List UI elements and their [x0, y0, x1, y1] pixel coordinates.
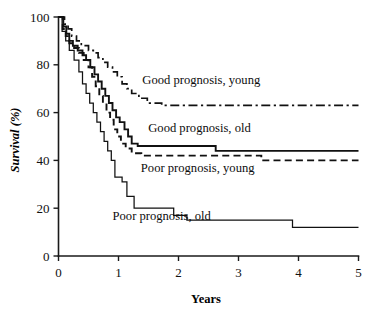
y-tick-label: 0 [43, 249, 50, 264]
y-tick-label: 20 [37, 201, 50, 216]
y-tick-label: 60 [37, 105, 50, 120]
x-tick-label: 4 [295, 265, 302, 280]
series-annotation-group: Good prognosis, youngGood prognosis, old… [113, 73, 261, 223]
series-line-good-prognosis-young [59, 17, 359, 105]
x-tick-label: 3 [235, 265, 242, 280]
x-tick-group: 012345 [55, 256, 362, 280]
x-tick-label: 2 [175, 265, 182, 280]
x-tick-label: 0 [55, 265, 62, 280]
x-axis-title: Years [191, 292, 221, 306]
series-label-poor-prognosis-old: Poor prognosis, old [113, 209, 212, 223]
survival-chart: 020406080100 012345 Good prognosis, youn… [0, 0, 379, 311]
y-axis-group: 020406080100 [30, 10, 59, 264]
y-tick-label: 80 [37, 57, 50, 72]
y-tick-group: 020406080100 [30, 10, 59, 264]
series-label-good-prognosis-old: Good prognosis, old [148, 121, 251, 135]
series-label-poor-prognosis-young: Poor prognosis, young [141, 161, 255, 175]
y-axis-title: Survival (%) [8, 108, 22, 173]
y-tick-label: 100 [30, 10, 50, 25]
x-tick-label: 5 [355, 265, 362, 280]
x-axis-group: 012345 [55, 256, 362, 280]
y-tick-label: 40 [37, 153, 50, 168]
chart-canvas: 020406080100 012345 Good prognosis, youn… [0, 0, 379, 311]
series-label-good-prognosis-young: Good prognosis, young [142, 73, 261, 87]
x-tick-label: 1 [115, 265, 122, 280]
